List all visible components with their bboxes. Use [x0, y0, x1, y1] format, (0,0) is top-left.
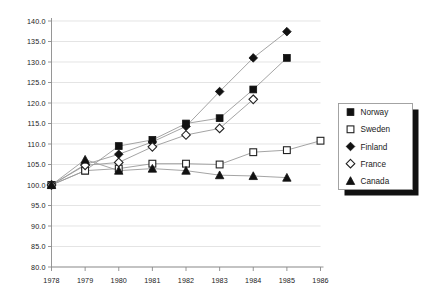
legend-label: Canada [361, 177, 390, 186]
legend-item-sweden[interactable]: Sweden [347, 125, 390, 134]
y-tick-label: 120.0 [27, 99, 46, 108]
data-point [81, 155, 89, 163]
x-tick-label: 1980 [111, 276, 127, 285]
y-tick-label: 125.0 [27, 78, 46, 87]
y-tick-labels: 140.0135.0130.0125.0120.0115.0110.0105.0… [27, 17, 46, 272]
x-axis [52, 267, 324, 271]
legend-marker-sweden [347, 126, 354, 133]
y-axis [48, 18, 52, 267]
y-tick-label: 95.0 [31, 201, 45, 210]
x-tick-label: 1979 [77, 276, 93, 285]
data-point [182, 131, 191, 140]
data-point [250, 86, 257, 93]
legend-label: Sweden [361, 125, 391, 134]
x-tick-label: 1978 [43, 276, 59, 285]
x-tick-label: 1986 [312, 276, 328, 285]
legend-item-norway[interactable]: Norway [347, 108, 389, 117]
x-tick-label: 1982 [178, 276, 194, 285]
x-tick-labels: 197819791980198119821983198419851986 [43, 276, 328, 285]
y-tick-label: 100.0 [27, 181, 46, 190]
x-tick-label: 1984 [245, 276, 261, 285]
line-chart: 140.0135.0130.0125.0120.0115.0110.0105.0… [0, 0, 425, 301]
x-tick-label: 1981 [144, 276, 160, 285]
data-point [283, 147, 290, 154]
chart-canvas: 140.0135.0130.0125.0120.0115.0110.0105.0… [0, 0, 425, 301]
y-tick-label: 105.0 [27, 160, 46, 169]
y-tick-label: 140.0 [27, 17, 46, 26]
legend: NorwaySwedenFinlandFranceCanada [339, 104, 419, 196]
data-point [250, 149, 257, 156]
y-tick-label: 135.0 [27, 37, 46, 46]
y-tick-label: 85.0 [31, 242, 45, 251]
data-point [114, 150, 123, 159]
x-tick-label: 1983 [211, 276, 227, 285]
data-point [216, 115, 223, 122]
series-group [47, 27, 324, 189]
y-tick-label: 80.0 [31, 263, 45, 272]
data-point [283, 55, 290, 62]
legend-label: Norway [361, 108, 390, 117]
y-tick-label: 90.0 [31, 222, 45, 231]
legend-label: France [361, 160, 387, 169]
legend-marker-norway [347, 109, 354, 116]
legend-label: Finland [361, 143, 388, 152]
y-tick-label: 115.0 [28, 119, 46, 128]
gridlines [52, 21, 321, 267]
data-point [115, 143, 122, 150]
data-point [317, 137, 324, 144]
y-tick-label: 110.0 [28, 140, 46, 149]
y-tick-label: 130.0 [27, 58, 46, 67]
x-tick-label: 1985 [279, 276, 295, 285]
data-point [216, 161, 223, 168]
data-point [283, 27, 292, 36]
